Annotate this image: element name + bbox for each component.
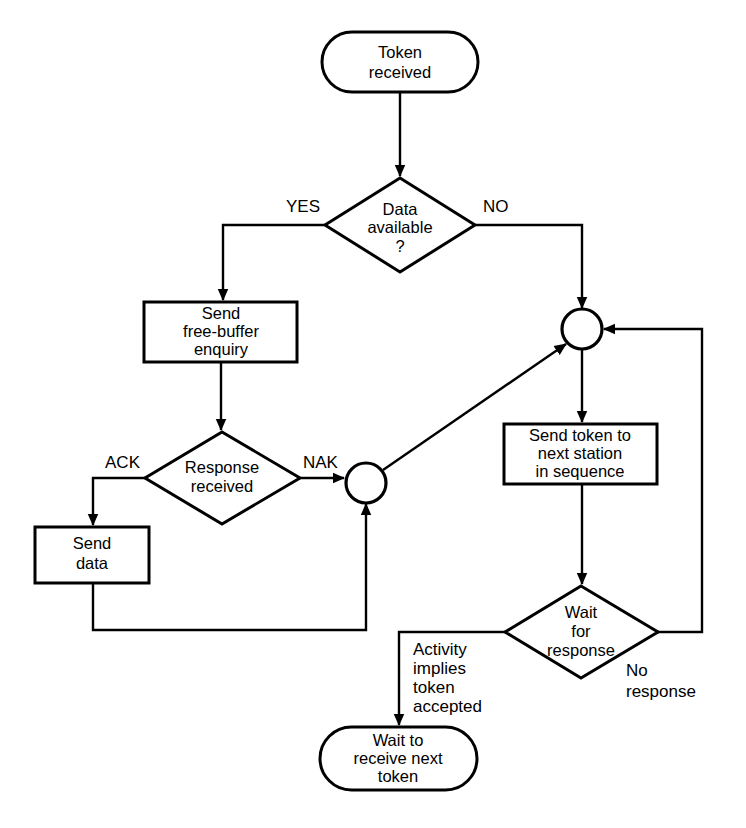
data-decision-line3: ? (395, 237, 404, 255)
wait-decision-line3: response (547, 641, 615, 659)
edge-label-no: NO (483, 197, 509, 216)
response-decision-line2: received (191, 477, 253, 495)
flowchart-canvas: Token received Data available ? Send fre… (0, 0, 746, 828)
data-decision-line2: available (367, 218, 432, 236)
end-terminal-line3: token (378, 767, 418, 785)
end-terminal-line1: Wait to (373, 731, 424, 749)
edge-label-no-response: No response (626, 661, 696, 701)
node-send-data: Send data (35, 527, 149, 583)
activity-implies-line2: implies (413, 659, 466, 678)
flowchart-svg: Token received Data available ? Send fre… (0, 0, 746, 828)
node-send-free-buffer-enquiry: Send free-buffer enquiry (144, 302, 297, 362)
send-token-line3: in sequence (536, 462, 625, 480)
send-enquiry-line3: enquiry (194, 340, 249, 358)
edge-label-activity-implies-token-accepted: Activity implies token accepted (413, 640, 482, 716)
node-send-token-next-station: Send token to next station in sequence (504, 424, 657, 484)
end-terminal-line2: receive next (354, 749, 443, 767)
wait-decision-line1: Wait (565, 603, 598, 621)
node-response-received-decision: Response received (145, 432, 300, 524)
edge-no-to-junction-upper (475, 225, 582, 308)
send-enquiry-line1: Send (202, 304, 241, 322)
edge-label-nak: NAK (303, 453, 339, 472)
send-token-line2: next station (538, 444, 622, 462)
activity-implies-line4: accepted (413, 697, 482, 716)
send-data-line2: data (76, 554, 109, 572)
data-decision-line1: Data (383, 200, 419, 218)
node-junction-lower (346, 463, 386, 503)
activity-implies-line1: Activity (413, 640, 467, 659)
edge-label-ack: ACK (105, 453, 141, 472)
start-terminal-line1: Token (378, 43, 422, 61)
send-data-line1: Send (73, 534, 112, 552)
response-decision-line1: Response (185, 458, 259, 476)
no-response-line2: response (626, 682, 696, 701)
edge-label-yes: YES (286, 197, 320, 216)
edge-ack-to-send-data (93, 478, 145, 525)
no-response-line1: No (626, 661, 648, 680)
node-data-available-decision: Data available ? (325, 178, 475, 272)
wait-decision-line2: for (571, 622, 591, 640)
node-junction-upper (562, 309, 602, 349)
node-start-terminal: Token received (322, 32, 478, 92)
start-terminal-line2: received (369, 63, 431, 81)
send-token-line1: Send token to (529, 426, 631, 444)
edge-yes-to-send-enquiry (223, 225, 325, 300)
node-end-terminal: Wait to receive next token (320, 727, 477, 790)
activity-implies-line3: token (413, 678, 455, 697)
send-enquiry-line2: free-buffer (183, 322, 259, 340)
